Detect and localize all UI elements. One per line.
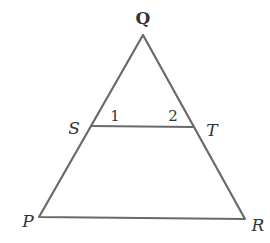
- label-t: T: [206, 120, 219, 140]
- label-q: Q: [136, 8, 151, 28]
- label-p: P: [21, 211, 34, 231]
- label-r: R: [251, 215, 265, 235]
- segment-st: [91, 126, 193, 127]
- angle-2-label: 2: [168, 107, 178, 125]
- triangle-diagram: Q S T P R 1 2: [0, 0, 270, 243]
- angle-1-label: 1: [110, 107, 120, 125]
- label-s: S: [68, 118, 80, 138]
